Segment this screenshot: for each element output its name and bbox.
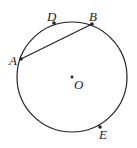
- label-a: A: [9, 54, 17, 67]
- label-d: D: [47, 10, 56, 23]
- point-a: [19, 57, 23, 61]
- chord-ab: [21, 24, 92, 59]
- label-o: O: [74, 78, 83, 91]
- label-b: B: [89, 10, 97, 23]
- label-e: E: [99, 128, 107, 141]
- diagram-svg: [0, 0, 137, 148]
- circle-diagram: A B D E O: [0, 0, 137, 148]
